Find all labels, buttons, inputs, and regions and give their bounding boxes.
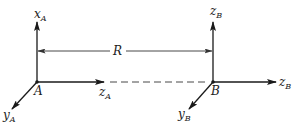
frame-a-horizontal-axis-label: zA [98, 85, 111, 101]
frame-b-origin-label: B [210, 84, 220, 98]
frame-a-diagonal-axis-label: yA [2, 108, 16, 124]
frame-b-horizontal-axis-label: zB [278, 75, 291, 91]
frame-a-origin-label: A [33, 84, 43, 98]
frame-b-vertical-axis-label: zB [209, 4, 222, 20]
frame-a-vertical-axis-label: xA [34, 7, 47, 23]
coordinate-frames-diagram: xA zA yA A R zB zB yB B [0, 0, 303, 131]
frame-a: xA zA yA A [2, 7, 111, 124]
frame-b: zB zB yB B [177, 4, 291, 123]
distance-label: R [112, 44, 122, 58]
frame-b-diagonal-axis-label: yB [177, 107, 191, 123]
frame-b-diagonal-axis [189, 82, 213, 109]
distance-dimension: R [38, 44, 212, 58]
